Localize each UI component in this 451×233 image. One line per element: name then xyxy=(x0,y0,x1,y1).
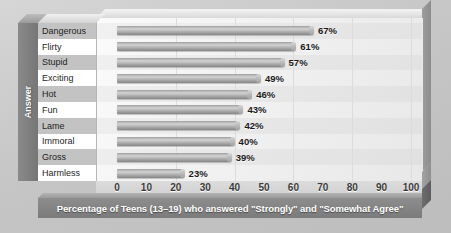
x-axis-caption-bar: Percentage of Teens (13–19) who answered… xyxy=(38,198,422,218)
x-tick-label: 40 xyxy=(229,182,240,193)
category-label-row: Stupid xyxy=(38,55,96,71)
plot-row-band xyxy=(96,55,422,71)
category-label-row: Dangerous xyxy=(38,23,96,39)
x-tick-label: 60 xyxy=(288,182,299,193)
gridline xyxy=(352,18,353,181)
x-tick-label: 80 xyxy=(347,182,358,193)
plot-row-band xyxy=(96,70,422,86)
x-tick-label: 50 xyxy=(258,182,269,193)
x-axis-caption-text: Percentage of Teens (13–19) who answered… xyxy=(57,203,404,214)
category-label: Gross xyxy=(42,152,66,162)
category-label: Harmless xyxy=(42,168,80,178)
gridline xyxy=(411,18,412,181)
bar-chart-figure: 0102030405060708090100 Answer DangerousF… xyxy=(0,0,451,233)
x-tick-label: 30 xyxy=(200,182,211,193)
category-label-row: Lame xyxy=(38,118,96,134)
category-label-row: Flirty xyxy=(38,39,96,55)
plot-row-band xyxy=(96,39,422,55)
category-label-row: Gross xyxy=(38,149,96,165)
category-label-row: Exciting xyxy=(38,70,96,86)
category-label: Hot xyxy=(42,89,56,99)
x-tick-label: 10 xyxy=(141,182,152,193)
plot-row-band xyxy=(96,165,422,181)
category-label: Stupid xyxy=(42,57,68,67)
plot-row-band xyxy=(96,86,422,102)
plot-wall-right-face xyxy=(422,0,431,172)
x-tick-label: 0 xyxy=(114,182,120,193)
category-label: Fun xyxy=(42,105,58,115)
y-axis-title: Answer xyxy=(18,23,38,181)
x-tick-label: 20 xyxy=(170,182,181,193)
plot-row-band xyxy=(96,149,422,165)
category-label: Dangerous xyxy=(42,26,86,36)
category-label: Lame xyxy=(42,121,65,131)
y-axis-title-text: Answer xyxy=(23,86,33,119)
x-tick-label: 90 xyxy=(376,182,387,193)
plot-row-band xyxy=(96,102,422,118)
gridline xyxy=(293,18,294,181)
category-label: Flirty xyxy=(42,42,62,52)
x-tick-label: 70 xyxy=(317,182,328,193)
category-label-row: Immoral xyxy=(38,134,96,150)
category-panel-top-face xyxy=(38,14,105,23)
category-label: Exciting xyxy=(42,73,74,83)
category-label-row: Hot xyxy=(38,86,96,102)
category-label-panel: DangerousFlirtyStupidExcitingHotFunLameI… xyxy=(38,23,97,181)
category-label: Immoral xyxy=(42,136,75,146)
plot-row-band xyxy=(96,134,422,150)
plot-row-band xyxy=(96,118,422,134)
gridline xyxy=(235,18,236,181)
gridline xyxy=(176,18,177,181)
plot-wall-top-face xyxy=(96,9,431,18)
category-label-row: Fun xyxy=(38,102,96,118)
category-label-row: Harmless xyxy=(38,165,96,181)
plot-row-band xyxy=(96,23,422,39)
x-tick-label: 100 xyxy=(403,182,420,193)
